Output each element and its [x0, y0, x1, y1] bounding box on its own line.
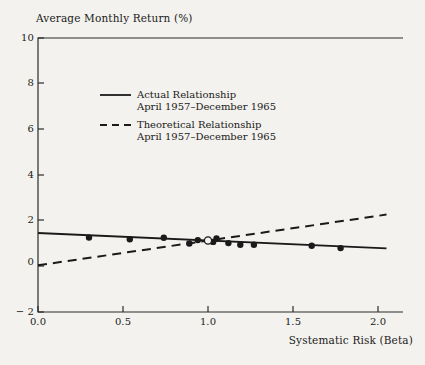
- scatter-point: [161, 235, 167, 241]
- scatter-point: [309, 243, 315, 249]
- y-axis-ticks: [38, 38, 44, 312]
- x-axis-ticks: [38, 306, 378, 312]
- scatter-point: [186, 240, 192, 246]
- scatter-point: [225, 240, 231, 246]
- scatter-point: [127, 236, 133, 242]
- scatter-point: [213, 235, 219, 241]
- axis-frame: [38, 38, 403, 312]
- scatter-point: [337, 245, 343, 251]
- scatter-points-open: [204, 237, 211, 244]
- scatter-point: [251, 242, 257, 248]
- scatter-point: [86, 234, 92, 240]
- chart-canvas: [0, 0, 425, 365]
- scatter-point: [195, 237, 201, 243]
- chart-figure: Average Monthly Return (%) Systematic Ri…: [0, 0, 425, 365]
- scatter-point: [237, 242, 243, 248]
- scatter-point-open: [204, 237, 211, 244]
